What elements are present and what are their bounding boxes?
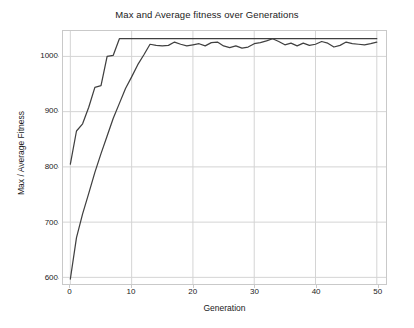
y-tick-mark <box>56 278 59 279</box>
x-tick-mark <box>316 285 317 288</box>
x-tick-label: 10 <box>116 288 146 296</box>
y-tick-mark <box>56 167 59 168</box>
y-tick-label: 700 <box>24 219 58 227</box>
y-tick-mark <box>56 111 59 112</box>
x-tick-label: 40 <box>301 288 331 296</box>
y-tick-mark <box>56 223 59 224</box>
y-tick-mark <box>56 56 59 57</box>
x-tick-mark <box>131 285 132 288</box>
series-line-1 <box>70 39 376 164</box>
y-tick-label: 800 <box>24 163 58 171</box>
plot-area <box>62 30 387 285</box>
grid-lines <box>63 31 386 284</box>
plot-svg <box>63 31 386 284</box>
data-lines <box>70 39 376 279</box>
chart-figure: Max and Average fitness over Generations… <box>0 0 414 328</box>
x-tick-mark <box>378 285 379 288</box>
x-axis-title: Generation <box>62 303 387 313</box>
x-tick-mark <box>254 285 255 288</box>
x-tick-mark <box>193 285 194 288</box>
y-tick-label: 600 <box>24 274 58 282</box>
x-tick-label: 20 <box>178 288 208 296</box>
chart-title: Max and Average fitness over Generations <box>0 9 414 20</box>
x-tick-label: 30 <box>239 288 269 296</box>
series-line-2 <box>70 39 376 279</box>
x-tick-label: 0 <box>54 288 84 296</box>
x-tick-mark <box>69 285 70 288</box>
y-tick-label: 900 <box>24 107 58 115</box>
y-axis-title: Max / Average Fitness <box>16 88 26 218</box>
x-tick-label: 50 <box>363 288 393 296</box>
x-axis-tick-labels: 01020304050 <box>62 288 387 302</box>
y-tick-label: 1000 <box>24 52 58 60</box>
